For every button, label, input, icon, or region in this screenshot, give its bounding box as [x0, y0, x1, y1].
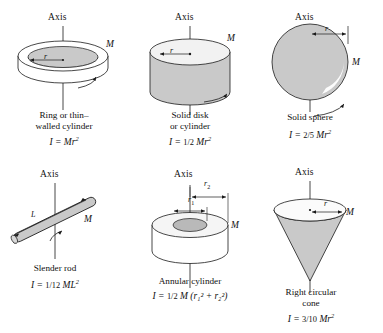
axis-label: Axis: [174, 169, 193, 179]
formula-lhs: I =: [169, 137, 183, 147]
formula-fraction: 1/12: [45, 281, 60, 290]
formula-lhs: I =: [288, 314, 302, 324]
axis-label: Axis: [295, 167, 314, 177]
mass-label: M: [231, 220, 239, 230]
mass-label: M: [227, 33, 235, 43]
formula-body: Mr: [64, 137, 76, 147]
formula-fraction: 2/5: [303, 131, 314, 140]
radius-label: r: [324, 199, 327, 208]
caption-disk: Solid disk or cylinder: [125, 110, 255, 132]
formula-fraction: 1/2: [167, 292, 178, 301]
moment-of-inertia-figure: Axis M r Ring or thin– walled cylinder I…: [0, 0, 383, 333]
axis-label: Axis: [175, 12, 194, 22]
formula-body: Mr: [319, 314, 331, 324]
formula-body: Mr: [316, 130, 328, 140]
mass-label: M: [352, 57, 360, 67]
caption-sphere: Solid sphere: [245, 112, 375, 123]
formula-body: ML: [63, 280, 76, 290]
formula-fraction: 3/10: [302, 315, 317, 324]
formula-body: Mr: [196, 137, 208, 147]
formula-lhs: I =: [31, 280, 45, 290]
formula-ring: I = Mr2: [0, 133, 129, 148]
inner-radius-label: r1: [188, 195, 194, 206]
caption-cone: Right circular cone: [246, 287, 376, 309]
formula-exponent: 2: [208, 135, 211, 142]
axis-label: Axis: [295, 12, 314, 22]
axis-label: Axis: [40, 169, 59, 179]
figure-cell-disk: Axis M r Solid disk or cylinder I = 1/2 …: [126, 0, 254, 166]
formula-exponent: 2: [76, 278, 79, 285]
formula-sphere: I = 2/5 Mr2: [245, 126, 375, 142]
figure-cell-sphere: Axis M r Solid sphere I = 2/5 Mr2: [252, 0, 383, 166]
formula-exponent: 2: [331, 312, 334, 319]
figure-cell-cone: Axis M r Right circular cone I = 3/10 Mr…: [252, 163, 383, 333]
radius-label: r: [44, 52, 47, 61]
mass-label: M: [346, 207, 354, 217]
axis-label: Axis: [48, 12, 67, 22]
outer-radius-label: r2: [204, 179, 210, 190]
figure-cell-ring: Axis M r Ring or thin– walled cylinder I…: [0, 0, 128, 166]
mass-label: M: [106, 39, 114, 49]
formula-lhs: I =: [49, 137, 63, 147]
caption-rod: Slender rod: [0, 263, 120, 274]
formula-annular: I = 1/2 M (r₁² + r₂²): [125, 290, 255, 303]
figure-cell-rod: Axis M L Slender rod I = 1/12 ML2: [0, 163, 128, 333]
formula-fraction: 1/2: [183, 138, 194, 147]
figure-cell-annular: Axis M r2 r1 Annular cylinder I = 1/2 M …: [126, 163, 254, 333]
slender-rod-drawing: [0, 163, 128, 333]
formula-lhs: I =: [153, 291, 167, 301]
formula-disk: I = 1/2 Mr2: [125, 133, 255, 149]
formula-lhs: I =: [289, 130, 303, 140]
caption-annular: Annular cylinder: [125, 276, 255, 287]
radius-label: r: [170, 46, 173, 55]
formula-body: M (r₁² + r₂²): [180, 291, 227, 301]
formula-rod: I = 1/12 ML2: [0, 276, 120, 292]
formula-exponent: 2: [75, 135, 78, 142]
length-label: L: [31, 210, 35, 219]
radius-label: r: [325, 24, 328, 33]
formula-cone: I = 3/10 Mr2: [246, 310, 376, 326]
annular-cylinder-drawing: [126, 163, 254, 333]
mass-label: M: [84, 214, 92, 224]
caption-ring: Ring or thin– walled cylinder: [0, 110, 129, 132]
formula-exponent: 2: [328, 128, 331, 135]
